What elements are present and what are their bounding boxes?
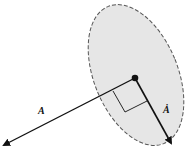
elliptical-surface bbox=[69, 0, 191, 151]
origin-point bbox=[132, 75, 139, 82]
label-vector-a: A bbox=[38, 105, 45, 116]
label-vector-a-dot: Ȧ bbox=[163, 104, 170, 115]
diagram-canvas bbox=[0, 0, 191, 151]
